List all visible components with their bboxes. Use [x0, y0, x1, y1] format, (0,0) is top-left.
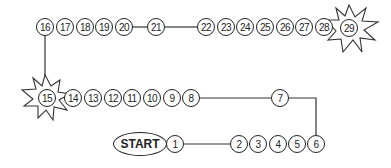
board-space-20[interactable]: 20: [115, 18, 133, 36]
board-space-5[interactable]: 5: [288, 135, 306, 153]
board-space-12[interactable]: 12: [104, 89, 122, 107]
board-space-11[interactable]: 11: [123, 89, 141, 107]
board-space-21[interactable]: 21: [147, 18, 165, 36]
board-space-15[interactable]: 15: [38, 89, 56, 107]
board-space-6[interactable]: 6: [307, 135, 325, 153]
board-space-16[interactable]: 16: [36, 18, 54, 36]
board-space-27[interactable]: 27: [295, 18, 313, 36]
board-space-25[interactable]: 25: [256, 18, 274, 36]
board-space-3[interactable]: 3: [249, 135, 267, 153]
board-space-2[interactable]: 2: [230, 135, 248, 153]
board-space-8[interactable]: 8: [182, 89, 200, 107]
board-space-18[interactable]: 18: [76, 18, 94, 36]
start-space[interactable]: START: [113, 132, 167, 156]
board-space-26[interactable]: 26: [276, 18, 294, 36]
board-space-29[interactable]: 29: [340, 19, 358, 37]
board-space-24[interactable]: 24: [236, 18, 254, 36]
board-space-4[interactable]: 4: [269, 135, 287, 153]
board-space-10[interactable]: 10: [143, 89, 161, 107]
board-space-13[interactable]: 13: [84, 89, 102, 107]
board-space-9[interactable]: 9: [163, 89, 181, 107]
board-space-23[interactable]: 23: [217, 18, 235, 36]
board-space-14[interactable]: 14: [64, 89, 82, 107]
board-space-28[interactable]: 28: [315, 18, 333, 36]
board-space-19[interactable]: 19: [95, 18, 113, 36]
board-space-22[interactable]: 22: [197, 18, 215, 36]
board-space-7[interactable]: 7: [271, 89, 289, 107]
board-space-1[interactable]: 1: [166, 135, 184, 153]
board-space-17[interactable]: 17: [56, 18, 74, 36]
